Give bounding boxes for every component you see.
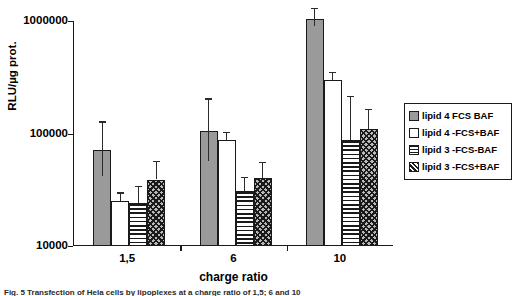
figure-caption: Fig. 5 Transfection of Hela cells by lip… xyxy=(4,288,301,296)
x-tick-mark xyxy=(287,246,288,251)
bar xyxy=(111,201,129,246)
x-tick-label: 10 xyxy=(310,252,370,264)
legend-item: lipid 4 FCS BAF xyxy=(409,107,508,124)
bar xyxy=(324,80,342,246)
bar xyxy=(306,19,324,246)
error-bar xyxy=(120,192,121,201)
error-bar-cap xyxy=(223,132,230,133)
bar xyxy=(129,203,147,246)
legend-swatch-diagonal-hatch-icon xyxy=(409,162,419,172)
y-tick-label: 100000 xyxy=(4,128,68,139)
x-tick-label: 1,5 xyxy=(97,252,157,264)
legend-label: lipid 3 -FCS+BAF xyxy=(422,162,499,172)
error-bar-cap xyxy=(347,96,354,97)
error-bar-cap xyxy=(117,192,124,193)
error-bar-cap xyxy=(329,72,336,73)
error-bar-cap xyxy=(241,177,248,178)
legend-item: lipid 4 -FCS+BAF xyxy=(409,124,508,141)
error-bar-cap xyxy=(135,186,142,187)
error-bar-cap xyxy=(365,109,372,110)
bar xyxy=(147,180,165,246)
chart-legend: lipid 4 FCS BAF lipid 4 -FCS+BAF lipid 3… xyxy=(404,103,512,180)
x-axis-label: charge ratio xyxy=(74,270,393,284)
bar xyxy=(342,140,360,246)
error-bar-cap xyxy=(311,8,318,9)
legend-label: lipid 4 FCS BAF xyxy=(422,111,493,121)
bar xyxy=(236,191,254,246)
error-bar xyxy=(138,186,139,203)
y-axis-ticks: 100001000001000000 xyxy=(0,0,68,296)
error-bar-cap xyxy=(259,162,266,163)
error-bar xyxy=(314,8,315,26)
legend-swatch-empty-white-icon xyxy=(409,128,419,138)
bar xyxy=(254,178,272,246)
legend-item: lipid 3 -FCS-BAF xyxy=(409,141,508,158)
error-bar-cap xyxy=(99,121,106,122)
legend-item: lipid 3 -FCS+BAF xyxy=(409,158,508,175)
error-bar xyxy=(156,161,157,180)
plot-area xyxy=(74,21,393,246)
error-bar xyxy=(102,121,103,175)
error-bar xyxy=(244,177,245,191)
y-tick-label: 10000 xyxy=(4,240,68,251)
legend-swatch-solid-gray-icon xyxy=(409,111,419,121)
x-tick-label: 6 xyxy=(204,252,264,264)
error-bar xyxy=(368,109,369,129)
x-tick-mark xyxy=(180,246,181,251)
legend-swatch-horizontal-lines-icon xyxy=(409,145,419,155)
bar xyxy=(360,129,378,246)
legend-label: lipid 3 -FCS-BAF xyxy=(422,145,497,155)
chart-figure: RLU/µg prot. 100001000001000000 charge r… xyxy=(0,0,517,296)
bar xyxy=(218,140,236,246)
y-tick-label: 1000000 xyxy=(4,15,68,26)
error-bar xyxy=(350,96,351,140)
error-bar-cap xyxy=(205,98,212,99)
error-bar xyxy=(262,162,263,178)
error-bar xyxy=(332,72,333,80)
legend-label: lipid 4 -FCS+BAF xyxy=(422,128,499,138)
error-bar-cap xyxy=(153,161,160,162)
error-bar xyxy=(226,132,227,140)
error-bar xyxy=(208,98,209,161)
